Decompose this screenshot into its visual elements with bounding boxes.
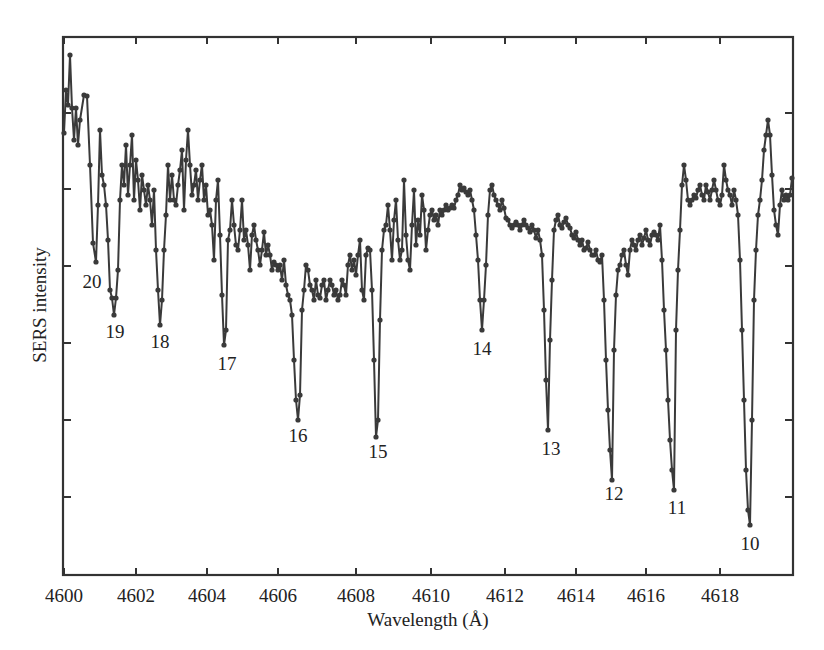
data-point-marker [151, 187, 156, 192]
data-point-marker [405, 257, 410, 262]
data-point-marker [539, 252, 544, 257]
data-point-marker [717, 202, 722, 207]
data-point-marker [157, 322, 162, 327]
data-point-marker [367, 247, 372, 252]
data-point-marker [721, 162, 726, 167]
data-point-marker [213, 197, 218, 202]
data-point-marker [67, 52, 72, 57]
data-point-marker [767, 132, 772, 137]
data-point-marker [499, 197, 504, 202]
data-point-marker [203, 182, 208, 187]
data-point-marker [545, 427, 550, 432]
data-point-marker [701, 197, 706, 202]
data-series [61, 52, 794, 527]
data-point-marker [777, 202, 782, 207]
data-point-marker [95, 202, 100, 207]
data-point-marker [137, 207, 142, 212]
data-point-marker [737, 257, 742, 262]
data-point-marker [135, 177, 140, 182]
data-point-marker [401, 177, 406, 182]
data-point-marker [471, 207, 476, 212]
data-point-marker [755, 212, 760, 217]
data-point-marker [627, 247, 632, 252]
data-point-marker [169, 172, 174, 177]
data-point-marker [175, 182, 180, 187]
dip-label-18: 18 [151, 331, 170, 352]
data-point-marker [543, 377, 548, 382]
data-point-marker [723, 177, 728, 182]
data-point-marker [727, 192, 732, 197]
dip-label-12: 12 [605, 483, 624, 504]
data-point-marker [391, 217, 396, 222]
data-point-marker [615, 267, 620, 272]
data-point-marker [675, 267, 680, 272]
data-point-marker [489, 182, 494, 187]
data-point-marker [529, 222, 534, 227]
data-point-marker [335, 297, 340, 302]
data-point-marker [379, 247, 384, 252]
data-point-marker [613, 292, 618, 297]
data-point-marker [653, 232, 658, 237]
data-point-marker [421, 207, 426, 212]
data-point-marker [697, 182, 702, 187]
data-point-marker [245, 242, 250, 247]
data-point-marker [295, 417, 300, 422]
data-point-marker [673, 327, 678, 332]
dip-label-19: 19 [106, 321, 125, 342]
data-point-marker [143, 202, 148, 207]
data-point-marker [657, 222, 662, 227]
data-point-marker [133, 157, 138, 162]
data-point-marker [123, 142, 128, 147]
data-point-marker [725, 187, 730, 192]
dip-label-16: 16 [289, 425, 308, 446]
data-point-marker [75, 142, 80, 147]
data-point-marker [535, 227, 540, 232]
data-point-marker [343, 292, 348, 297]
data-point-marker [553, 217, 558, 222]
data-point-marker [591, 252, 596, 257]
data-point-marker [101, 182, 106, 187]
data-point-marker [659, 257, 664, 262]
data-point-marker [735, 212, 740, 217]
data-point-marker [751, 297, 756, 302]
data-point-marker [585, 239, 590, 244]
data-point-marker [305, 267, 310, 272]
data-point-marker [455, 192, 460, 197]
data-point-marker [567, 225, 572, 230]
data-point-marker [277, 262, 282, 267]
data-point-marker [599, 252, 604, 257]
data-point-marker [73, 105, 78, 110]
data-point-marker [789, 175, 794, 180]
data-point-marker [215, 177, 220, 182]
data-point-marker [381, 227, 386, 232]
data-point-marker [413, 242, 418, 247]
data-point-marker [409, 222, 414, 227]
data-point-marker [661, 307, 666, 312]
dip-label-15: 15 [369, 441, 388, 462]
data-point-marker [377, 317, 382, 322]
data-point-marker [361, 297, 366, 302]
data-point-marker [757, 197, 762, 202]
data-point-marker [363, 252, 368, 257]
data-point-marker [433, 212, 438, 217]
data-point-marker [303, 262, 308, 267]
data-point-marker [451, 205, 456, 210]
data-point-marker [665, 397, 670, 402]
data-point-marker [485, 212, 490, 217]
data-point-marker [347, 252, 352, 257]
data-point-marker [285, 292, 290, 297]
data-point-marker [617, 262, 622, 267]
data-point-marker [467, 187, 472, 192]
axis-ticks [63, 37, 793, 575]
data-point-marker [679, 182, 684, 187]
data-point-marker [243, 227, 248, 232]
data-point-marker [753, 247, 758, 252]
sers-spectrum-chart: 4600460246044606460846104612461446164618… [0, 0, 824, 650]
data-point-marker [631, 242, 636, 247]
data-point-marker [179, 147, 184, 152]
x-tick-label: 4612 [486, 585, 524, 606]
data-point-marker [731, 187, 736, 192]
data-point-marker [237, 227, 242, 232]
x-tick-label: 4618 [701, 585, 739, 606]
data-point-marker [241, 237, 246, 242]
